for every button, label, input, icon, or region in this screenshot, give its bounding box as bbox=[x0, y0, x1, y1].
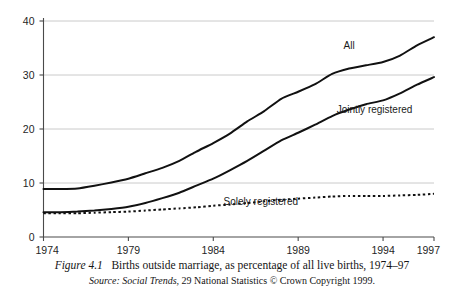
x-axis-tick-labels: 197419791984198919941997 bbox=[36, 244, 441, 256]
y-tick-marks bbox=[40, 21, 44, 237]
source-rest: 29 National Statistics © Crown Copyright… bbox=[182, 275, 375, 286]
x-tick-label: 1979 bbox=[117, 244, 141, 256]
caption-block: Figure 4.1 Births outside marriage, as p… bbox=[0, 258, 464, 288]
x-tick-marks bbox=[44, 237, 435, 241]
series-label-solely-registered: Solely registered bbox=[224, 196, 298, 207]
x-tick-label: 1974 bbox=[36, 244, 60, 256]
series-label-all: All bbox=[344, 40, 355, 51]
series-label-jointly-registered: Jointly registered bbox=[337, 104, 413, 115]
y-tick-label: 10 bbox=[23, 177, 35, 189]
figure-caption: Figure 4.1 Births outside marriage, as p… bbox=[0, 258, 464, 273]
y-tick-label: 20 bbox=[23, 123, 35, 135]
y-tick-label: 40 bbox=[23, 15, 35, 27]
y-axis-tick-labels: 010203040 bbox=[23, 15, 35, 243]
y-tick-label: 0 bbox=[29, 231, 35, 243]
figure-container: 010203040 197419791984198919941997 AllJo… bbox=[0, 0, 464, 302]
source-caption: Source: Social Trends, 29 National Stati… bbox=[0, 274, 464, 288]
x-tick-label: 1989 bbox=[286, 244, 310, 256]
chart-plot-area: 010203040 197419791984198919941997 AllJo… bbox=[0, 0, 464, 258]
line-chart: 010203040 197419791984198919941997 AllJo… bbox=[0, 0, 464, 258]
x-tick-label: 1994 bbox=[371, 244, 395, 256]
source-title: Social Trends, bbox=[122, 275, 179, 286]
x-tick-label: 1984 bbox=[202, 244, 226, 256]
data-series bbox=[44, 37, 435, 213]
x-tick-label: 1997 bbox=[417, 244, 441, 256]
figure-caption-text: Births outside marriage, as percentage o… bbox=[111, 259, 409, 271]
y-tick-label: 30 bbox=[23, 69, 35, 81]
source-label: Source: bbox=[89, 275, 120, 286]
series-line-jointly-registered bbox=[44, 77, 435, 212]
figure-number: Figure 4.1 bbox=[55, 259, 103, 271]
